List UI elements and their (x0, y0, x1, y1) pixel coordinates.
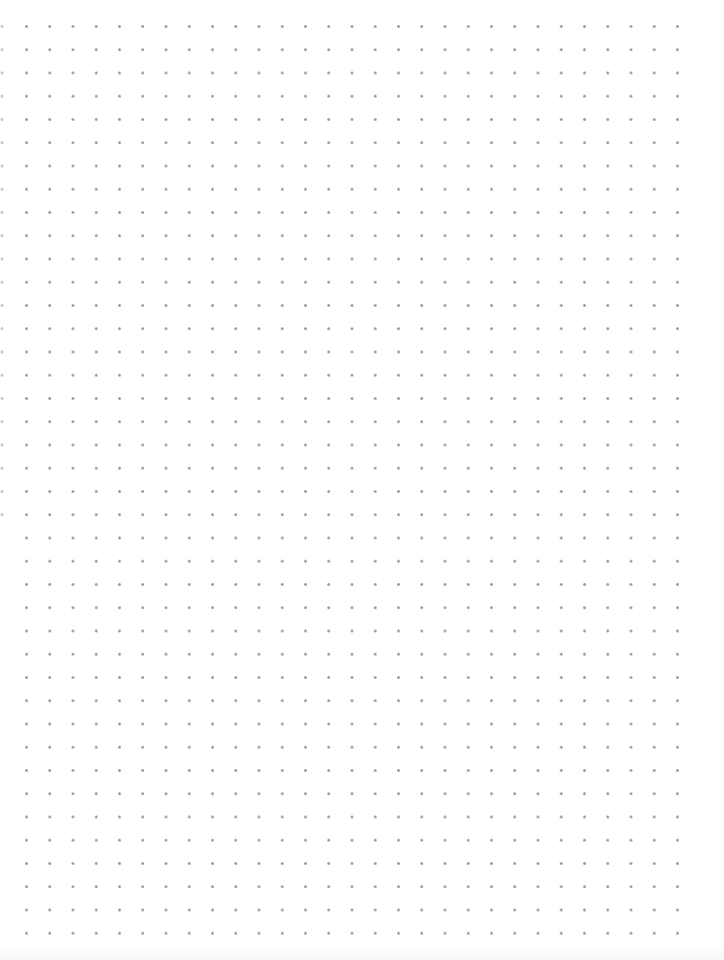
dot-grid-sheet (0, 0, 724, 960)
binding-edge-dots (0, 25, 5, 537)
dot-grid (25, 25, 699, 955)
page-bottom-shadow (0, 946, 724, 960)
